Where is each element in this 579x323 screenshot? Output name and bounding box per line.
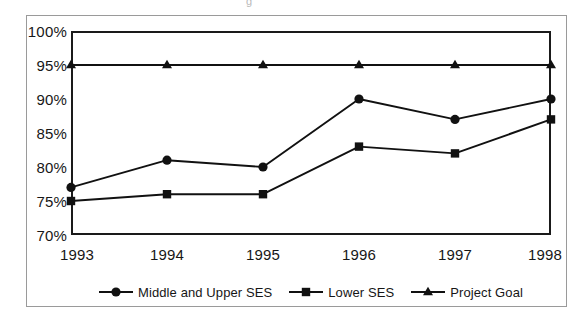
y-axis-tick-95: 95% bbox=[36, 57, 67, 74]
series-project-goal bbox=[66, 60, 556, 69]
legend-label: Lower SES bbox=[328, 285, 394, 300]
x-axis-tick-1998: 1998 bbox=[528, 246, 562, 263]
data-point-marker-circle bbox=[162, 156, 171, 165]
data-point-marker-triangle bbox=[423, 287, 433, 296]
series-lower-ses bbox=[67, 115, 555, 205]
legend-item-project-goal[interactable]: Project Goal bbox=[411, 285, 523, 300]
data-point-marker-square bbox=[163, 190, 171, 198]
legend-swatch-circle bbox=[99, 286, 133, 298]
data-point-marker-circle bbox=[258, 162, 267, 171]
data-point-marker-square bbox=[355, 142, 363, 150]
data-point-marker-triangle bbox=[354, 60, 364, 69]
series-line bbox=[71, 99, 551, 187]
chart-legend: Middle and Upper SESLower SESProject Goa… bbox=[71, 281, 551, 303]
data-point-marker-circle bbox=[450, 115, 459, 124]
x-axis-tick-1995: 1995 bbox=[246, 246, 280, 263]
legend-item-lower-ses[interactable]: Lower SES bbox=[289, 285, 394, 300]
y-axis-tick-75: 75% bbox=[36, 193, 67, 210]
legend-swatch-triangle bbox=[411, 286, 445, 298]
y-axis-tick-90: 90% bbox=[36, 91, 67, 108]
data-point-marker-square bbox=[67, 197, 75, 205]
data-point-marker-square bbox=[302, 288, 310, 296]
data-point-marker-square bbox=[259, 190, 267, 198]
legend-label: Middle and Upper SES bbox=[138, 285, 272, 300]
data-point-marker-triangle bbox=[162, 60, 172, 69]
scan-artifact-glyph: g bbox=[246, 0, 253, 7]
plot-canvas bbox=[71, 31, 551, 235]
x-axis-tick-1993: 1993 bbox=[60, 246, 94, 263]
chart-figure: g 70%75%80%85%90%95%100% 199319941995199… bbox=[0, 0, 579, 323]
x-axis-tick-1994: 1994 bbox=[150, 246, 184, 263]
data-point-marker-triangle bbox=[258, 60, 268, 69]
x-axis-tick-labels: 199319941995199619971998 bbox=[71, 246, 551, 270]
x-axis-tick-1997: 1997 bbox=[438, 246, 472, 263]
y-axis-tick-80: 80% bbox=[36, 159, 67, 176]
y-axis-tick-85: 85% bbox=[36, 125, 67, 142]
data-point-marker-triangle bbox=[450, 60, 460, 69]
y-axis-tick-100: 100% bbox=[28, 23, 67, 40]
data-point-marker-circle bbox=[546, 94, 555, 103]
legend-item-middle-and-upper-ses[interactable]: Middle and Upper SES bbox=[99, 285, 272, 300]
legend-swatch-square bbox=[289, 286, 323, 298]
legend-label: Project Goal bbox=[450, 285, 523, 300]
data-point-marker-square bbox=[451, 149, 459, 157]
data-point-marker-circle bbox=[354, 94, 363, 103]
data-point-marker-square bbox=[547, 115, 555, 123]
y-axis-tick-70: 70% bbox=[36, 227, 67, 244]
data-point-marker-circle bbox=[111, 287, 120, 296]
x-axis-tick-1996: 1996 bbox=[342, 246, 376, 263]
data-point-marker-circle bbox=[66, 183, 75, 192]
y-axis-tick-labels: 70%75%80%85%90%95%100% bbox=[14, 31, 67, 235]
series-line bbox=[71, 119, 551, 201]
